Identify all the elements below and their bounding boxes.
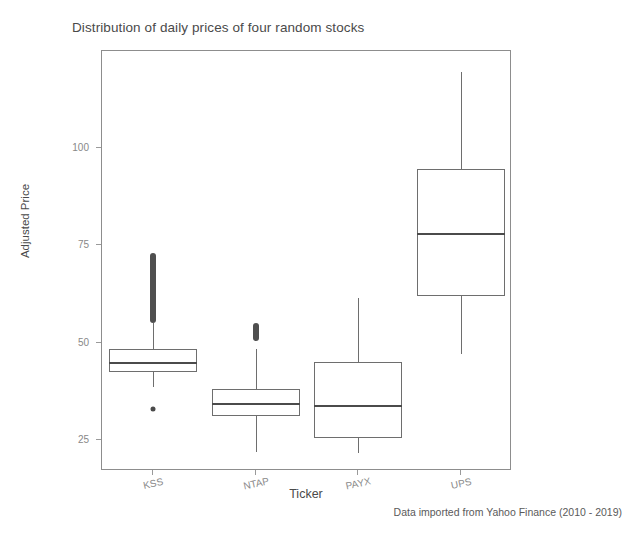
- y-tick-label: 50: [49, 336, 89, 347]
- x-tick-mark: [460, 470, 461, 475]
- y-tick-mark: [96, 439, 101, 440]
- outlier-point: [151, 406, 156, 411]
- outlier-cluster: [150, 253, 156, 323]
- source-caption: Data imported from Yahoo Finance (2010 -…: [394, 506, 622, 518]
- y-tick-mark: [96, 147, 101, 148]
- x-axis-title: Ticker: [101, 487, 511, 501]
- outlier-cluster: [253, 323, 259, 341]
- whisker-lower: [461, 296, 462, 354]
- y-tick-label: 100: [49, 142, 89, 153]
- y-tick-mark: [96, 244, 101, 245]
- whisker-upper: [256, 349, 257, 390]
- median-line: [109, 362, 197, 364]
- x-tick-mark: [255, 470, 256, 475]
- chart-title: Distribution of daily prices of four ran…: [72, 20, 364, 35]
- median-line: [314, 405, 402, 407]
- box-payx: [314, 362, 402, 437]
- y-tick-mark: [96, 342, 101, 343]
- boxplot-figure: Distribution of daily prices of four ran…: [0, 0, 634, 553]
- whisker-lower: [256, 416, 257, 452]
- median-line: [417, 233, 505, 235]
- whisker-upper: [153, 323, 154, 349]
- x-tick-mark: [357, 470, 358, 475]
- whisker-upper: [461, 72, 462, 169]
- y-tick-label: 25: [49, 433, 89, 444]
- y-axis-title: Adjusted Price: [19, 151, 31, 291]
- whisker-lower: [153, 372, 154, 388]
- plot-area: [101, 50, 511, 470]
- x-tick-mark: [152, 470, 153, 475]
- whisker-lower: [358, 438, 359, 454]
- median-line: [212, 403, 300, 405]
- box-kss: [109, 349, 197, 372]
- y-tick-label: 75: [49, 239, 89, 250]
- whisker-upper: [358, 298, 359, 362]
